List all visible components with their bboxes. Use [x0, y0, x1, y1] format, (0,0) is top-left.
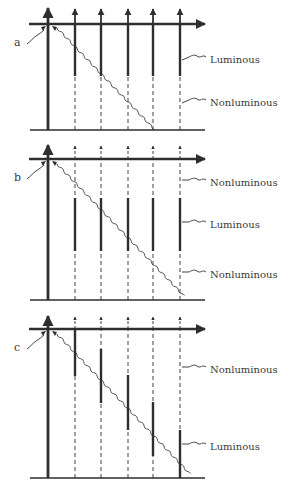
- callout-leader: [182, 178, 206, 180]
- light-signal-arrowhead: [52, 331, 57, 336]
- callout-label-luminous: Luminous: [210, 219, 260, 230]
- light-signal-arrowhead: [52, 161, 57, 166]
- callout-leader: [182, 270, 206, 272]
- callout-label-nonluminous: Nonluminous: [210, 97, 278, 108]
- callout-leader: [182, 98, 206, 103]
- callout-leader: [182, 55, 206, 60]
- callout-leader: [182, 442, 206, 444]
- callout-label-nonluminous: Nonluminous: [210, 269, 278, 280]
- panel-letter-a: a: [14, 36, 21, 49]
- light-signal-wavy-line: [57, 334, 191, 474]
- panel-letter-b: b: [14, 171, 21, 184]
- light-signal-wavy-line: [57, 28, 155, 130]
- light-signal-arrowhead: [52, 26, 57, 31]
- panel-a: aLuminousNonluminous: [14, 8, 278, 130]
- panel-letter-leader: [27, 165, 44, 179]
- callout-label-nonluminous: Nonluminous: [210, 177, 278, 188]
- panel-c: cNonluminousLuminous: [14, 316, 278, 478]
- callout-label-nonluminous: Nonluminous: [210, 364, 278, 375]
- panel-letter-leader: [27, 335, 44, 349]
- spacetime-diagram-figure: aLuminousNonluminousbNonluminousLuminous…: [0, 0, 282, 491]
- panel-letter-leader: [27, 30, 44, 44]
- callout-leader: [182, 220, 206, 222]
- callout-label-luminous: Luminous: [210, 54, 260, 65]
- callout-label-luminous: Luminous: [210, 441, 260, 452]
- panel-letter-c: c: [14, 341, 20, 354]
- panel-b: bNonluminousLuminousNonluminous: [14, 145, 278, 300]
- callout-leader: [182, 365, 206, 367]
